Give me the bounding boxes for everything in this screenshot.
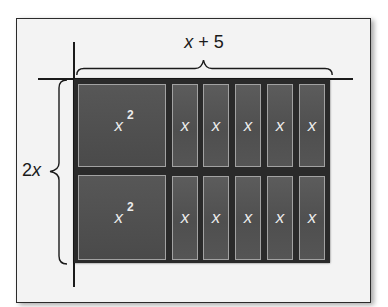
tile-label: x (276, 208, 285, 228)
tile-label: x (244, 116, 253, 136)
left-label-coefficient: 2 (22, 160, 32, 180)
tile-label-base: x (114, 116, 123, 136)
x-tile: x (172, 84, 198, 167)
x-tile: x (267, 84, 293, 167)
x-tile: x (203, 176, 229, 260)
top-brace-icon (76, 58, 333, 76)
tile-label: x (181, 116, 190, 136)
tile-label: x (276, 116, 285, 136)
x-tile: x (203, 84, 229, 167)
tile-label: x (244, 208, 253, 228)
x-tile: x (299, 176, 325, 260)
left-brace-icon (44, 79, 68, 265)
tile-label: x (212, 208, 221, 228)
left-label-variable: x (32, 160, 41, 180)
top-label-constant: 5 (214, 32, 224, 52)
x-tile: x (299, 84, 325, 167)
x-tile: x (235, 84, 261, 167)
left-dimension-label: 2x (22, 160, 41, 181)
x-squared-tile: x2 (78, 84, 166, 167)
top-label-operator: + (198, 32, 209, 52)
tile-label: x (308, 116, 317, 136)
top-label-variable: x (184, 32, 193, 52)
tile-label-base: x (114, 208, 123, 228)
tile-label-exponent: 2 (127, 200, 134, 214)
tile-label: x (181, 208, 190, 228)
tile-label: x (212, 116, 221, 136)
x-tile: x (267, 176, 293, 260)
tile-label: x (308, 208, 317, 228)
x-squared-tile: x2 (78, 175, 166, 260)
x-tile: x (235, 176, 261, 260)
tile-label-exponent: 2 (127, 108, 134, 122)
x-tile: x (172, 176, 198, 260)
top-dimension-label: x + 5 (177, 32, 231, 53)
